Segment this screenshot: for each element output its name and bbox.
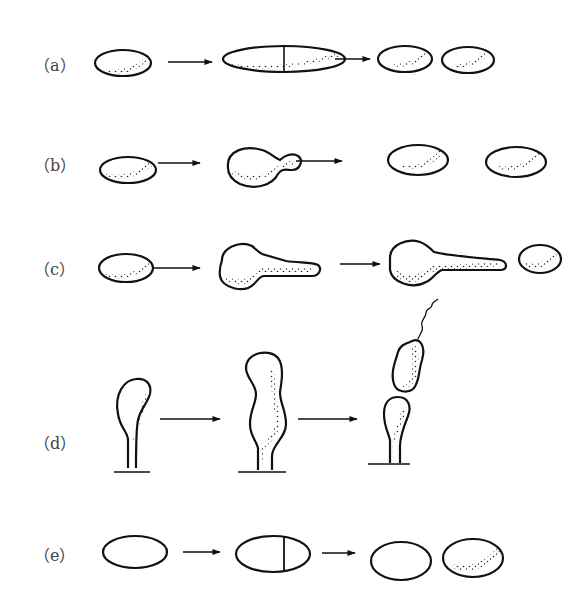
cell-division-figure: （a） （b） （c） （d） （e）: [0, 0, 575, 602]
elongated-stalked-cell: [238, 353, 286, 472]
oval-cell: [99, 254, 153, 282]
daughter-cell: [519, 245, 561, 273]
dividing-cell: [223, 46, 345, 72]
filament-cell: [220, 244, 320, 289]
dividing-hatched-cell: [236, 536, 310, 572]
filament-with-bud: [390, 241, 506, 285]
rod-cell: [95, 50, 151, 76]
plain-daughter-cell: [443, 539, 503, 577]
row-a: [95, 46, 494, 76]
stalked-daughter-cell: [368, 397, 410, 464]
diagram-canvas: [0, 0, 575, 602]
row-d: [114, 299, 438, 472]
daughter-cell-2: [442, 47, 494, 73]
daughter-cell-1: [388, 145, 448, 175]
row-b: [100, 145, 546, 187]
flagellum: [418, 299, 438, 339]
hatched-cell: [103, 536, 167, 568]
hatched-daughter-cell: [371, 542, 431, 580]
stalked-cell: [114, 379, 150, 472]
oval-cell: [100, 157, 156, 183]
row-c: [99, 241, 561, 289]
budding-cell: [228, 148, 301, 187]
row-e: [103, 536, 503, 580]
swarmer-cell: [393, 299, 438, 391]
daughter-cell-2: [486, 147, 546, 177]
daughter-cell-1: [378, 46, 432, 72]
